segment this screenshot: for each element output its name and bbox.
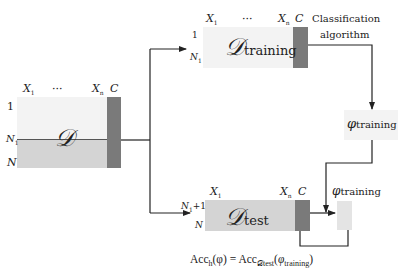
accuracy-formula: Acch(φ) = Acc𝒟test(φtraining) xyxy=(190,253,313,269)
connector-lines xyxy=(0,0,408,280)
